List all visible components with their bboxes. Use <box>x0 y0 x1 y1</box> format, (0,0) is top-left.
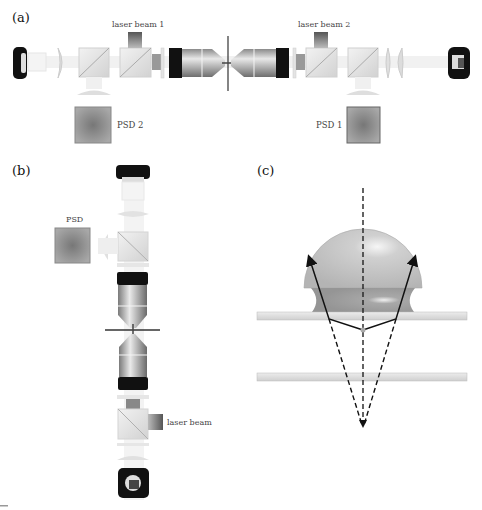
psd-1-detector <box>347 107 380 143</box>
dashed-ray-left <box>329 319 362 425</box>
window-b3 <box>117 443 149 446</box>
corner-mark <box>0 505 8 507</box>
beam-segment-a2 <box>296 54 305 70</box>
laser-beam-b-label: laser beam <box>167 418 212 427</box>
lens-right-1-icon <box>386 48 390 78</box>
panel-b-label: (b) <box>12 163 30 178</box>
camera-bottom-icon <box>118 468 149 498</box>
beam-to-psd-b <box>98 238 118 254</box>
beamsplitter-cube-b2 <box>118 409 148 439</box>
laser-beam-2-label: laser beam 2 <box>298 20 350 29</box>
coverslip-bottom <box>257 373 467 381</box>
objective-left-icon <box>169 48 225 78</box>
panel-a-label: (a) <box>12 10 30 25</box>
beamsplitter-cube-a1 <box>79 48 109 77</box>
beam-to-psd2 <box>86 77 102 89</box>
beam-segment-a1 <box>152 54 161 70</box>
lens-bottom-b-icon <box>117 456 149 460</box>
lens-top-b-icon <box>117 211 149 217</box>
camera-top-icon <box>116 165 150 200</box>
lens-right-2-icon <box>398 48 403 78</box>
window-b1 <box>117 263 149 267</box>
laser-beam-b-input <box>148 414 163 430</box>
coverslip-top <box>257 312 467 320</box>
focus-arrowhead-icon <box>359 420 367 428</box>
focal-point <box>361 328 366 333</box>
psd-2-label: PSD 2 <box>117 120 143 130</box>
beam-segment-b <box>126 399 140 409</box>
panel-b: (b) PSD <box>12 163 212 500</box>
laser-beam-1-label: laser beam 1 <box>112 20 164 29</box>
camera-right-icon <box>448 47 470 79</box>
beamsplitter-cube-a4 <box>348 48 378 77</box>
psd-1-label: PSD 1 <box>316 120 342 130</box>
laser-beam-2-input <box>314 32 328 48</box>
beamsplitter-cube-a3 <box>306 48 337 77</box>
lens-psd2-icon <box>77 91 111 96</box>
psd-2-detector <box>75 107 111 143</box>
window-a2 <box>293 48 296 78</box>
beam-to-psd1 <box>355 77 371 89</box>
psd-b-detector <box>55 228 90 263</box>
optical-trap-diagram: (a) PSD 2 laser beam 1 <box>0 0 482 510</box>
dashed-ray-right <box>364 319 396 425</box>
objective-right-icon <box>231 48 289 78</box>
lens-psd1-icon <box>346 91 380 96</box>
laser-beam-1-input <box>128 32 142 48</box>
window-b2 <box>117 395 149 399</box>
camera-left-icon <box>13 47 46 79</box>
panel-c: (c) <box>257 163 467 428</box>
beamsplitter-cube-a2 <box>120 48 151 77</box>
window-a1 <box>161 48 164 78</box>
psd-b-label: PSD <box>66 215 83 224</box>
panel-a: (a) PSD 2 laser beam 1 <box>12 10 470 143</box>
beamsplitter-cube-b1 <box>118 232 148 261</box>
panel-c-label: (c) <box>257 163 274 178</box>
